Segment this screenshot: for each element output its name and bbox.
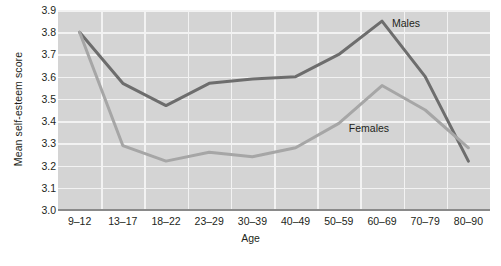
series-label-females: Females bbox=[349, 122, 389, 134]
y-axis-tick-label: 3.6 bbox=[30, 72, 56, 82]
x-axis-tick-label: 50–59 bbox=[324, 215, 353, 227]
x-axis-line bbox=[58, 209, 490, 211]
y-axis-tick-label: 3.4 bbox=[30, 116, 56, 126]
x-axis-tick-label: 40–49 bbox=[281, 215, 310, 227]
y-axis-tick-label: 3.2 bbox=[30, 161, 56, 171]
x-axis-tick-label: 60–69 bbox=[367, 215, 396, 227]
x-axis-tick-label: 13–17 bbox=[108, 215, 137, 227]
plot-area bbox=[58, 10, 490, 210]
x-axis-tick-label: 70–79 bbox=[411, 215, 440, 227]
x-axis-tick-label: 18–22 bbox=[151, 215, 180, 227]
y-axis-tick-label: 3.8 bbox=[30, 27, 56, 37]
chart-container: Mean self-esteem score 3.03.13.23.33.43.… bbox=[0, 0, 501, 266]
y-axis-tick-label: 3.0 bbox=[30, 205, 56, 215]
series-line-females bbox=[80, 32, 469, 161]
y-axis-tick-label: 3.3 bbox=[30, 138, 56, 148]
y-axis-tick-label: 3.9 bbox=[30, 5, 56, 15]
y-axis-tick-label: 3.5 bbox=[30, 94, 56, 104]
x-axis-tick-label: 23–29 bbox=[195, 215, 224, 227]
y-axis-tick-label: 3.1 bbox=[30, 183, 56, 193]
y-axis-title: Mean self-esteem score bbox=[12, 29, 24, 189]
series-lines bbox=[58, 10, 490, 210]
x-axis-tick-label: 9–12 bbox=[68, 215, 91, 227]
x-axis-title: Age bbox=[0, 232, 501, 244]
x-axis-tick-label: 80–90 bbox=[454, 215, 483, 227]
series-line-males bbox=[80, 21, 469, 161]
y-axis-tick-label: 3.7 bbox=[30, 49, 56, 59]
series-label-males: Males bbox=[392, 17, 420, 29]
x-axis-tick-label: 30–39 bbox=[238, 215, 267, 227]
